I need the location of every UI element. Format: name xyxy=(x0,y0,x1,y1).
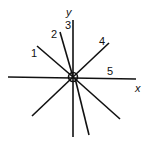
x-axis-label: x xyxy=(134,82,141,94)
line-lower-left xyxy=(32,77,73,116)
line-4 xyxy=(73,43,109,77)
lines xyxy=(8,20,136,137)
label-2: 2 xyxy=(51,28,57,40)
line-lower-2 xyxy=(75,78,89,135)
label-1: 1 xyxy=(31,47,37,59)
line-1 xyxy=(37,46,73,77)
label-5: 5 xyxy=(107,65,113,77)
label-3: 3 xyxy=(65,19,71,31)
label-4: 4 xyxy=(99,35,105,47)
line-2 xyxy=(60,32,73,77)
line-pencil-diagram: 1 2 3 4 5 y x xyxy=(0,0,148,142)
y-axis-label: y xyxy=(65,6,73,18)
